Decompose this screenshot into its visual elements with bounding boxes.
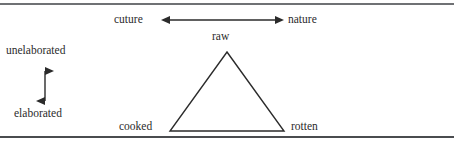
triangle-shape (170, 52, 284, 131)
culinary-triangle-figure: cuture nature unelaborated elaborated ra… (0, 0, 454, 149)
vertex-label-rotten: rotten (291, 120, 318, 133)
axis-label-unelaborated: unelaborated (6, 44, 65, 57)
vertex-label-raw: raw (212, 30, 229, 43)
diagram-artwork (0, 0, 454, 149)
vertex-label-cooked: cooked (119, 120, 152, 133)
axis-label-cuture: cuture (114, 13, 143, 26)
axis-label-nature: nature (288, 13, 317, 26)
axis-label-elaborated: elaborated (14, 107, 62, 120)
